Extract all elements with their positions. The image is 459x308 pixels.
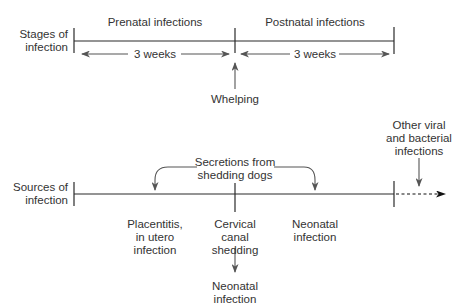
prenatal-label: Prenatal infections	[95, 16, 215, 29]
neonatal-mid-line2: infection	[280, 231, 350, 244]
secretions-label: Secretions from shedding dogs	[190, 156, 280, 182]
placentitis-label: Placentitis, in utero infection	[120, 218, 190, 257]
other-line3: infections	[379, 145, 459, 158]
sources-row-label-line2: infection	[4, 194, 68, 207]
whelping-label: Whelping	[205, 93, 265, 106]
secretions-label-line2: shedding dogs	[190, 169, 280, 182]
secretions-right-arrow	[274, 167, 315, 190]
cervical-line3: shedding	[200, 244, 270, 257]
sources-timeline	[74, 181, 445, 212]
placentitis-line2: in utero	[120, 231, 190, 244]
cervical-line1: Cervical	[200, 218, 270, 231]
other-line2: and bacterial	[379, 132, 459, 145]
placentitis-line3: infection	[120, 244, 190, 257]
secretions-label-line1: Secretions from	[190, 156, 280, 169]
other-infections-label: Other viral and bacterial infections	[379, 119, 459, 158]
prenatal-duration-label: 3 weeks	[130, 48, 180, 61]
stages-row-label-line1: Stages of	[8, 28, 68, 41]
sources-row-label: Sources of infection	[4, 181, 68, 207]
postnatal-label: Postnatal infections	[255, 16, 375, 29]
neonatal-infection-bottom-label: Neonatal infection	[200, 280, 270, 306]
cervical-shedding-label: Cervical canal shedding	[200, 218, 270, 257]
stages-row-label-line2: infection	[8, 41, 68, 54]
cervical-line2: canal	[200, 231, 270, 244]
neonatal-infection-label: Neonatal infection	[280, 218, 350, 244]
neonatal-mid-line1: Neonatal	[280, 218, 350, 231]
placentitis-line1: Placentitis,	[120, 218, 190, 231]
stages-timeline	[74, 27, 394, 54]
neonatal-bottom-line1: Neonatal	[200, 280, 270, 293]
postnatal-duration-label: 3 weeks	[290, 48, 340, 61]
neonatal-bottom-line2: infection	[200, 293, 270, 306]
stages-row-label: Stages of infection	[8, 28, 68, 54]
sources-row-label-line1: Sources of	[4, 181, 68, 194]
other-line1: Other viral	[379, 119, 459, 132]
